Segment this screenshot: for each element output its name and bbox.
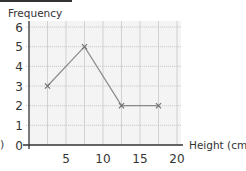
y-tick-label: 5	[15, 40, 23, 54]
x-tick-label: 10	[95, 152, 110, 166]
y-tick-label: 3	[15, 80, 23, 94]
x-axis-title: Height (cm)	[189, 139, 246, 151]
x-tick-label: 20	[169, 152, 184, 166]
y-tick-label: 6	[15, 21, 23, 35]
y-tick-label: 2	[15, 99, 23, 113]
y-tick-label: 4	[15, 60, 23, 74]
y-tick-label: 0	[15, 139, 23, 153]
x-tick-label: 15	[132, 152, 147, 166]
x-tick-label: 5	[62, 152, 70, 166]
y-tick-label: 1	[15, 119, 23, 133]
frequency-polygon-chart: 01234565101520FrequencyHeight (cm)	[0, 0, 246, 171]
y-axis-title: Frequency	[8, 7, 62, 19]
